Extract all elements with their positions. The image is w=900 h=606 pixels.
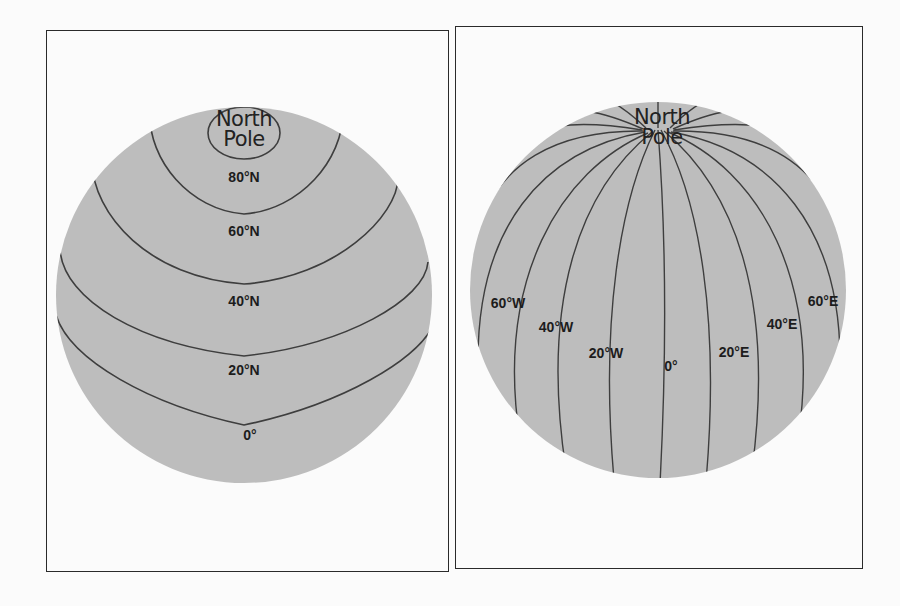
longitude-globe (470, 96, 846, 484)
longitude-label-60w: 60°W (491, 295, 525, 311)
longitude-label-40e: 40°E (767, 316, 798, 332)
longitude-label-60e: 60°E (808, 293, 839, 309)
longitude-label-40w: 40°W (539, 319, 573, 335)
longitude-label-20e: 20°E (719, 344, 750, 360)
globe-right (470, 102, 846, 478)
north-pole-label-left: North Pole (216, 109, 272, 149)
longitude-label-0: 0° (664, 358, 677, 374)
latitude-label-40n: 40°N (228, 293, 259, 309)
pole-label-line2: Pole (634, 127, 690, 147)
north-pole-label-right: North Pole (634, 107, 690, 147)
pole-label-line2: Pole (216, 129, 272, 149)
latitude-label-60n: 60°N (228, 223, 259, 239)
globes-drawing (0, 0, 900, 606)
latitude-label-20n: 20°N (228, 362, 259, 378)
latitude-label-80n: 80°N (228, 169, 259, 185)
pole-label-line1: North (216, 109, 272, 129)
pole-label-line1: North (634, 107, 690, 127)
longitude-label-20w: 20°W (589, 345, 623, 361)
latitude-label-0: 0° (243, 427, 256, 443)
